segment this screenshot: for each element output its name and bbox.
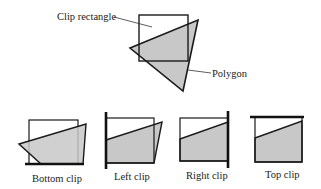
clipped-polygon bbox=[255, 121, 302, 162]
polygon-label: Polygon bbox=[212, 68, 248, 79]
stage-bottom-clip: Bottom clip bbox=[19, 120, 86, 184]
clip-rectangle-leader-line bbox=[114, 17, 152, 27]
stage-label: Top clip bbox=[265, 169, 300, 180]
polygon-leader-line bbox=[188, 70, 211, 73]
top-figure: Clip rectangle Polygon bbox=[57, 11, 248, 91]
stage-right-clip: Right clip bbox=[180, 111, 228, 181]
stage-label: Bottom clip bbox=[32, 173, 82, 184]
stage-left-clip: Left clip bbox=[106, 112, 162, 182]
stage-label: Right clip bbox=[186, 170, 228, 181]
clipped-polygon bbox=[180, 122, 228, 161]
clip-rectangle-label: Clip rectangle bbox=[57, 11, 117, 22]
stage-label: Left clip bbox=[114, 171, 150, 182]
stage-top-clip: Top clip bbox=[250, 117, 304, 180]
clipping-diagram: Clip rectangle Polygon Bottom clip Left … bbox=[0, 0, 321, 189]
